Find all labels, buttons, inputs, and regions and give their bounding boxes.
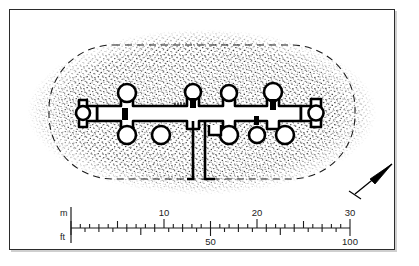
- figure-root: m ft: [0, 0, 419, 266]
- scale-label-m-30: 30: [345, 207, 356, 218]
- scale-unit-label-m: m: [60, 208, 68, 218]
- scale-feet-ticks: [71, 228, 350, 236]
- scale-label-m-10: 10: [159, 207, 170, 218]
- scale-unit-label-ft: ft: [60, 232, 66, 242]
- scale-label-ft-100: 100: [342, 236, 358, 247]
- dual-unit-scale-bar: m ft: [9, 9, 395, 250]
- scale-label-ft-50: 50: [205, 236, 216, 247]
- scale-meter-ticks: [71, 219, 350, 228]
- scale-label-m-20: 20: [252, 207, 263, 218]
